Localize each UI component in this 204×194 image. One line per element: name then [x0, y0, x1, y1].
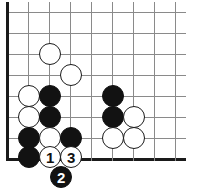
white-move-3[interactable]: 3 — [60, 146, 82, 168]
grid-line-horizontal — [6, 54, 186, 55]
white-stone-b7[interactable] — [18, 106, 40, 128]
stone-move-number: 2 — [57, 170, 65, 185]
black-stone-f7[interactable] — [102, 106, 124, 128]
black-stone-c7[interactable] — [39, 106, 61, 128]
white-stone-c4[interactable] — [39, 43, 61, 65]
grid-line-horizontal — [6, 12, 186, 13]
black-stone-c6[interactable] — [39, 85, 61, 107]
white-stone-b6[interactable] — [18, 85, 40, 107]
black-stone-b9[interactable] — [18, 146, 40, 168]
go-board-diagram: 132 — [0, 0, 204, 194]
black-stone-f6[interactable] — [102, 85, 124, 107]
stone-move-number: 3 — [67, 150, 75, 165]
white-stone-f8[interactable] — [102, 127, 124, 149]
grid-line-horizontal — [6, 75, 186, 76]
white-stone-d5[interactable] — [60, 64, 82, 86]
board-left-edge — [6, 2, 9, 161]
stone-move-number: 1 — [46, 150, 54, 165]
grid-line-vertical — [175, 2, 176, 161]
white-stone-g7[interactable] — [123, 106, 145, 128]
grid-line-horizontal — [6, 33, 186, 34]
white-move-1[interactable]: 1 — [39, 146, 61, 168]
white-stone-g8[interactable] — [123, 127, 145, 149]
black-move-2[interactable]: 2 — [50, 166, 72, 188]
grid-line-vertical — [91, 2, 92, 161]
grid-line-vertical — [154, 2, 155, 161]
